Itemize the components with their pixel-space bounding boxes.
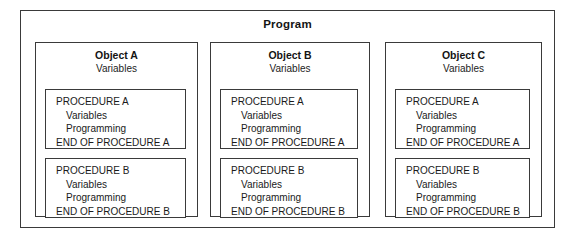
procedure-box-b-1: PROCEDURE A Variables Programming END OF…: [220, 89, 358, 149]
object-box-c: Object C Variables PROCEDURE A Variables…: [385, 42, 542, 217]
object-variables-label-b: Variables: [211, 63, 369, 75]
procedure-header: PROCEDURE B: [56, 164, 185, 178]
object-header-a: Object A Variables: [36, 43, 197, 75]
procedure-box-b-2: PROCEDURE B Variables Programming END OF…: [220, 158, 358, 218]
program-container: Program Object A Variables PROCEDURE A V…: [20, 10, 555, 228]
procedure-programming-line: Programming: [406, 191, 529, 205]
object-title-a: Object A: [36, 49, 197, 62]
procedure-box-a-1: PROCEDURE A Variables Programming END OF…: [45, 89, 186, 149]
procedure-header: PROCEDURE A: [406, 95, 529, 109]
object-header-b: Object B Variables: [211, 43, 369, 75]
procedure-programming-line: Programming: [56, 122, 185, 136]
procedure-footer: END OF PROCEDURE A: [231, 136, 357, 150]
procedure-header: PROCEDURE A: [231, 95, 357, 109]
procedure-variables-line: Variables: [56, 109, 185, 123]
procedure-footer: END OF PROCEDURE B: [231, 205, 357, 219]
object-columns: Object A Variables PROCEDURE A Variables…: [21, 11, 554, 227]
procedure-programming-line: Programming: [231, 191, 357, 205]
procedure-programming-line: Programming: [406, 122, 529, 136]
object-variables-label-a: Variables: [36, 63, 197, 75]
object-variables-label-c: Variables: [386, 63, 541, 75]
procedure-programming-line: Programming: [56, 191, 185, 205]
object-box-b: Object B Variables PROCEDURE A Variables…: [210, 42, 370, 217]
procedure-variables-line: Variables: [406, 178, 529, 192]
object-box-a: Object A Variables PROCEDURE A Variables…: [35, 42, 198, 217]
procedure-box-a-2: PROCEDURE B Variables Programming END OF…: [45, 158, 186, 218]
object-header-c: Object C Variables: [386, 43, 541, 75]
procedure-footer: END OF PROCEDURE B: [406, 205, 529, 219]
procedure-variables-line: Variables: [406, 109, 529, 123]
procedure-footer: END OF PROCEDURE B: [56, 205, 185, 219]
procedure-box-c-1: PROCEDURE A Variables Programming END OF…: [395, 89, 530, 149]
procedure-header: PROCEDURE A: [56, 95, 185, 109]
procedure-variables-line: Variables: [56, 178, 185, 192]
procedure-variables-line: Variables: [231, 178, 357, 192]
procedure-header: PROCEDURE B: [231, 164, 357, 178]
procedure-footer: END OF PROCEDURE A: [56, 136, 185, 150]
procedure-programming-line: Programming: [231, 122, 357, 136]
diagram-canvas: Program Object A Variables PROCEDURE A V…: [0, 0, 577, 243]
procedure-header: PROCEDURE B: [406, 164, 529, 178]
object-title-b: Object B: [211, 49, 369, 62]
procedure-variables-line: Variables: [231, 109, 357, 123]
procedure-footer: END OF PROCEDURE A: [406, 136, 529, 150]
object-title-c: Object C: [386, 49, 541, 62]
procedure-box-c-2: PROCEDURE B Variables Programming END OF…: [395, 158, 530, 218]
